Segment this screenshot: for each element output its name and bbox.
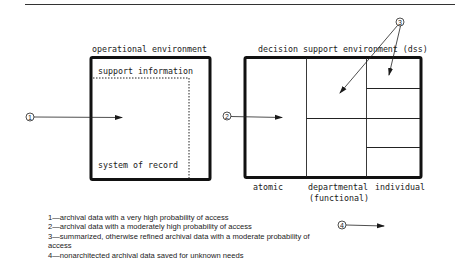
dss-column-atomic: atomic: [253, 182, 283, 192]
marker-1-arrow: [34, 117, 122, 118]
marker-3-arrow-departmental: [340, 26, 398, 94]
legend-item-2: 2—archival data with a moderately high p…: [48, 222, 318, 231]
marker-4-arrow: [346, 225, 384, 226]
svg-text:1: 1: [28, 114, 32, 121]
svg-text:4: 4: [340, 222, 344, 229]
dss-column-individual: individual: [375, 182, 425, 192]
legend-item-1: 1—archival data with a very high probabi…: [48, 213, 318, 222]
svg-text:2: 2: [225, 113, 229, 120]
dss-title: decision support environment (dss): [258, 44, 428, 54]
dss-column-departmental: departmental: [308, 182, 368, 192]
legend: 1—archival data with a very high probabi…: [48, 213, 318, 260]
dss-column-departmental-sub: (functional): [309, 193, 369, 203]
marker-1: 1: [26, 113, 34, 121]
operational-environment-title: operational environment: [92, 44, 207, 54]
marker-2: 2: [223, 112, 231, 120]
marker-2-arrow: [231, 117, 282, 118]
legend-item-3: 3—summarized, otherwise refined archival…: [48, 232, 318, 251]
system-of-record-label: system of record: [98, 160, 178, 170]
marker-4: 4: [338, 221, 346, 229]
svg-text:3: 3: [398, 19, 402, 26]
marker-3: 3: [396, 18, 404, 26]
legend-item-4: 4—nonarchitected archival data saved for…: [48, 251, 318, 260]
support-information-label: support information: [98, 66, 193, 76]
